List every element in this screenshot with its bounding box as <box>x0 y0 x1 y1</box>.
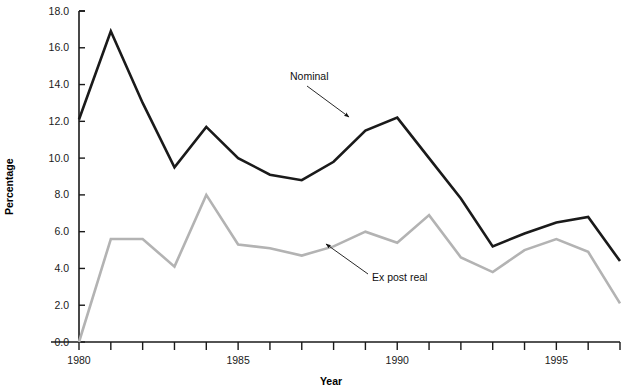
x-axis-tick-labels: 1980198519901995 <box>67 354 568 366</box>
x-axis-tick-label: 1995 <box>545 354 569 366</box>
y-axis-tick-label: 4.0 <box>54 262 69 274</box>
y-axis-tick-labels: 0.02.04.06.08.010.012.014.016.018.0 <box>49 5 70 348</box>
y-axis-title: Percentage <box>3 158 15 215</box>
y-axis-tick-label: 16.0 <box>49 41 70 53</box>
x-axis-ticks <box>79 342 620 350</box>
y-axis-tick-label: 14.0 <box>49 78 70 90</box>
series-lines <box>79 31 620 342</box>
y-axis-tick-label: 18.0 <box>49 5 70 17</box>
y-axis-tick-label: 6.0 <box>54 225 69 237</box>
y-axis-tick-label: 8.0 <box>54 188 69 200</box>
annotation-label-ex-post-real: Ex post real <box>372 271 427 283</box>
y-axis-tick-label: 0.0 <box>54 336 69 348</box>
x-axis-tick-label: 1985 <box>226 354 250 366</box>
y-axis-tick-label: 10.0 <box>49 152 70 164</box>
series-line-ex-post-real <box>79 195 620 342</box>
line-chart-plot: 0.02.04.06.08.010.012.014.016.018.0 1980… <box>0 0 628 391</box>
y-axis-tick-label: 2.0 <box>54 299 69 311</box>
series-line-nominal <box>79 31 620 261</box>
axis-lines <box>51 11 620 342</box>
annotation-arrow-ex-post-real <box>326 244 368 274</box>
annotation-label-nominal: Nominal <box>290 70 329 82</box>
y-axis-tick-label: 12.0 <box>49 115 70 127</box>
y-axis-ticks <box>79 11 85 342</box>
x-axis-title: Year <box>320 375 342 387</box>
x-axis-tick-label: 1980 <box>67 354 91 366</box>
chart-container: 0.02.04.06.08.010.012.014.016.018.0 1980… <box>0 0 628 391</box>
annotation-arrow-nominal <box>307 86 349 117</box>
x-axis-tick-label: 1990 <box>386 354 410 366</box>
